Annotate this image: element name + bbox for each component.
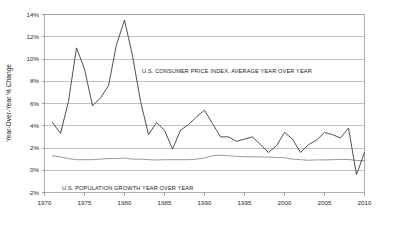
y-tick-label: 14% bbox=[27, 11, 40, 18]
series-line-cpi bbox=[53, 20, 365, 175]
population-series-annotation: U.S. POPULATION GROWTH YEAR OVER YEAR bbox=[62, 185, 193, 191]
y-tick-label: 2% bbox=[30, 144, 39, 151]
gridlines-group bbox=[45, 15, 365, 171]
y-axis-title: Year-Over-Year % Change bbox=[5, 64, 13, 142]
chart-container: -2%0%2%4%6%8%10%12%14% 19701975198019851… bbox=[0, 0, 398, 226]
x-axis-ticks: 197019751980198519901995200020052010 bbox=[38, 193, 372, 206]
x-tick-label: 2005 bbox=[318, 199, 332, 206]
x-tick-label: 1970 bbox=[38, 199, 52, 206]
y-tick-label: 6% bbox=[30, 100, 39, 107]
x-tick-label: 1990 bbox=[198, 199, 212, 206]
y-tick-label: 4% bbox=[30, 122, 39, 129]
x-tick-label: 2000 bbox=[278, 199, 292, 206]
y-tick-label: -2% bbox=[28, 189, 40, 196]
x-tick-label: 1985 bbox=[158, 199, 172, 206]
y-tick-label: 8% bbox=[30, 77, 39, 84]
y-tick-label: 12% bbox=[27, 33, 40, 40]
y-tick-label: 0% bbox=[30, 166, 39, 173]
x-tick-label: 1975 bbox=[78, 199, 92, 206]
x-tick-label: 2010 bbox=[358, 199, 372, 206]
cpi-series-annotation: U.S. CONSUMER PRICE INDEX, AVERAGE YEAR … bbox=[142, 68, 312, 74]
x-tick-label: 1995 bbox=[238, 199, 252, 206]
y-tick-label: 10% bbox=[27, 55, 40, 62]
y-axis-ticks: -2%0%2%4%6%8%10%12%14% bbox=[27, 11, 45, 196]
line-chart: -2%0%2%4%6%8%10%12%14% 19701975198019851… bbox=[0, 0, 398, 226]
series-line-population bbox=[53, 155, 365, 161]
x-tick-label: 1980 bbox=[118, 199, 132, 206]
